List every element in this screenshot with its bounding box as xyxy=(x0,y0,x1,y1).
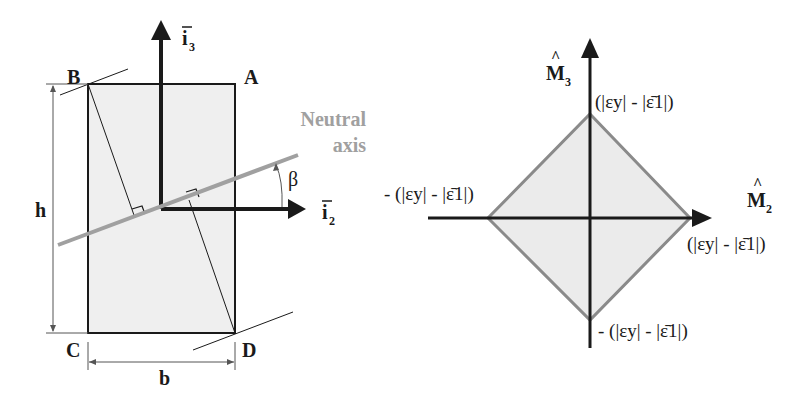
corner-label-b: B xyxy=(67,66,80,88)
dim-arrow-b-right-icon xyxy=(227,359,234,365)
axis-label-m2-subscript: 2 xyxy=(766,202,772,216)
vertex-label-top: (|εy| - |ε̄1|) xyxy=(595,91,674,113)
corner-label-d: D xyxy=(242,339,256,361)
dim-arrow-h-top-icon xyxy=(50,85,56,92)
neutral-axis-label-line2: axis xyxy=(333,134,367,156)
axis-label-i2-subscript: 2 xyxy=(329,214,335,228)
interaction-diagram: ^ M 3 ^ M 2 (|εy| - |ε̄1|) (|εy| - |ε̄1|… xyxy=(384,38,772,348)
arrow-i3-icon xyxy=(151,20,171,40)
vertex-label-left: - (|εy| - |ε̄1|) xyxy=(384,183,474,205)
corner-label-c: C xyxy=(66,339,80,361)
dim-arrow-h-bottom-icon xyxy=(50,325,56,332)
axis-label-i2: i 2 xyxy=(322,201,335,228)
angle-beta-arc xyxy=(276,165,282,207)
axis-label-m3-subscript: 3 xyxy=(565,75,571,89)
axis-label-i2-base: i xyxy=(322,201,328,223)
neutral-axis-label-line1: Neutral xyxy=(300,108,366,130)
dim-arrow-b-left-icon xyxy=(89,359,96,365)
figure-canvas: B A C D h b i 3 i 2 Neutral axis β xyxy=(0,0,811,395)
axis-label-m3-base: M xyxy=(546,62,565,84)
axis-label-i3: i 3 xyxy=(182,27,195,54)
axis-label-m2: ^ M 2 xyxy=(747,175,772,216)
axis-label-m3: ^ M 3 xyxy=(546,48,571,89)
dimension-label-h: h xyxy=(35,199,46,221)
arrow-m2-icon xyxy=(692,209,712,227)
vertex-label-right: (|εy| - |ε̄1|) xyxy=(687,233,766,255)
angle-label-beta: β xyxy=(288,168,298,191)
arrow-i2-icon xyxy=(288,199,306,219)
cross-section-diagram: B A C D h b i 3 i 2 Neutral axis β xyxy=(35,20,366,389)
vertex-label-bottom: - (|εy| - |ε̄1|) xyxy=(598,320,688,342)
axis-label-i3-subscript: 3 xyxy=(189,40,195,54)
dimension-label-b: b xyxy=(159,367,170,389)
axis-label-m2-base: M xyxy=(747,189,766,211)
corner-label-a: A xyxy=(244,66,259,88)
axis-label-i3-base: i xyxy=(182,27,188,49)
arrow-m3-icon xyxy=(581,38,599,58)
